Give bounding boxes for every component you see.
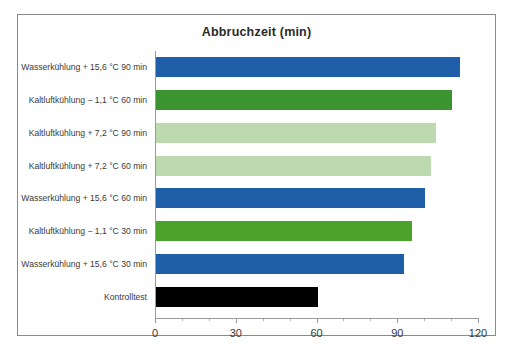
x-axis-tick-label: 120 [469,327,487,339]
x-axis-major-tick [155,319,156,323]
x-axis-minor-tick [209,319,210,321]
bar-row: Kaltluftkühlung − 1,1 °C 30 min [155,221,479,241]
x-axis-major-tick [478,319,479,323]
bar [156,188,425,208]
x-axis-minor-tick [263,319,264,321]
bar-category-label: Kaltluftkühlung − 1,1 °C 30 min [29,226,147,236]
bar-category-label: Wasserkühlung + 15,6 °C 90 min [21,62,147,72]
x-axis-tick-label: 90 [391,327,403,339]
bar-row: Wasserkühlung + 15,6 °C 90 min [155,57,479,77]
x-axis-major-tick [397,319,398,323]
chart-title: Abbruchzeit (min) [18,25,495,39]
bar-row: Kaltluftkühlung + 7,2 °C 90 min [155,123,479,143]
bar [156,156,431,176]
x-axis-minor-tick [451,319,452,321]
x-axis-major-tick [236,319,237,323]
bar-row: Wasserkühlung + 15,6 °C 60 min [155,188,479,208]
bar [156,57,460,77]
bar [156,254,404,274]
bar-category-label: Kaltluftkühlung + 7,2 °C 90 min [29,128,147,138]
x-axis-minor-tick [182,319,183,321]
bar-row: Kontrolltest [155,287,479,307]
bar-category-label: Kaltluftkühlung + 7,2 °C 60 min [29,161,147,171]
bar-row: Kaltluftkühlung + 7,2 °C 60 min [155,156,479,176]
x-axis-minor-tick [370,319,371,321]
bar-row: Kaltluftkühlung − 1,1 °C 60 min [155,90,479,110]
bar [156,90,452,110]
x-axis-tick-label: 60 [310,327,322,339]
bar [156,287,318,307]
plot-area: Wasserkühlung + 15,6 °C 90 minKaltluftkü… [155,51,479,319]
x-axis-tick-label: 0 [152,327,158,339]
x-axis-minor-tick [343,319,344,321]
x-axis-tick-label: 30 [230,327,242,339]
bar-category-label: Kaltluftkühlung − 1,1 °C 60 min [29,95,147,105]
x-axis-minor-tick [290,319,291,321]
x-axis-minor-tick [424,319,425,321]
bar-category-label: Wasserkühlung + 15,6 °C 30 min [21,259,147,269]
bar-category-label: Wasserkühlung + 15,6 °C 60 min [21,193,147,203]
bar [156,221,412,241]
bar-category-label: Kontrolltest [104,292,147,302]
x-axis-major-tick [317,319,318,323]
chart-figure-frame: Abbruchzeit (min) Wasserkühlung + 15,6 °… [17,14,496,336]
bar [156,123,436,143]
bar-row: Wasserkühlung + 15,6 °C 30 min [155,254,479,274]
